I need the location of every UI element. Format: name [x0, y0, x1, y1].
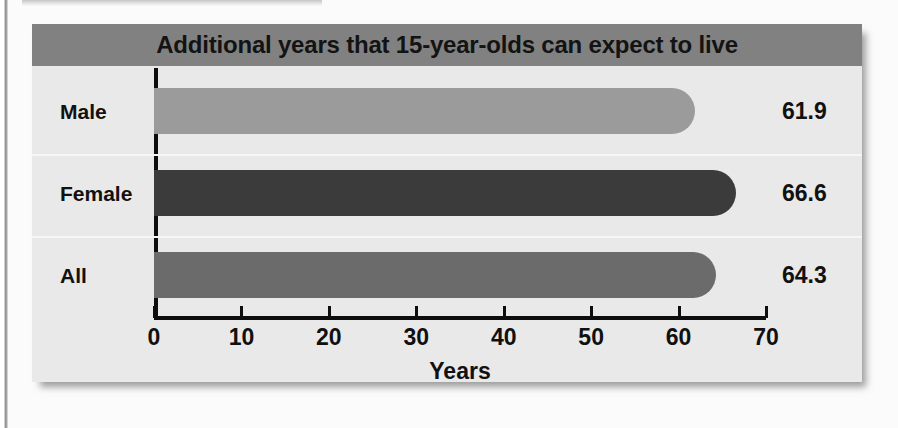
x-tick-label: 70	[736, 324, 796, 351]
bar-female	[154, 170, 736, 216]
category-label-all: All	[60, 264, 87, 288]
x-tick	[153, 306, 156, 318]
x-axis-line	[154, 316, 766, 320]
category-label-female: Female	[60, 182, 132, 206]
chart-title: Additional years that 15-year-olds can e…	[32, 24, 862, 66]
value-label-male: 61.9	[782, 98, 827, 125]
x-axis-title: Years	[154, 358, 766, 385]
x-tick	[503, 306, 506, 318]
x-tick-label: 20	[299, 324, 359, 351]
x-tick	[765, 306, 768, 318]
category-label-male: Male	[60, 100, 107, 124]
x-tick-label: 60	[649, 324, 709, 351]
x-tick-label: 0	[124, 324, 184, 351]
x-tick-label: 40	[474, 324, 534, 351]
bar-all	[154, 252, 716, 298]
row-separator	[32, 236, 862, 238]
x-tick	[590, 306, 593, 318]
chart-panel: Additional years that 15-year-olds can e…	[32, 24, 862, 382]
value-label-female: 66.6	[782, 180, 827, 207]
x-tick	[240, 306, 243, 318]
scan-top-smudge-artifact	[22, 0, 322, 6]
x-tick	[415, 306, 418, 318]
value-label-all: 64.3	[782, 262, 827, 289]
x-tick-label: 50	[561, 324, 621, 351]
bar-male	[154, 88, 695, 134]
x-tick-label: 30	[386, 324, 446, 351]
x-tick-label: 10	[211, 324, 271, 351]
plot-area: Years Male61.9Female66.6All64.3010203040…	[32, 66, 862, 382]
row-separator	[32, 154, 862, 156]
x-tick	[678, 306, 681, 318]
x-tick	[328, 306, 331, 318]
